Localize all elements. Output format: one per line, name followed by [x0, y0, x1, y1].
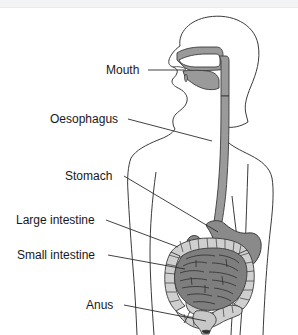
- label-small-intestine: Small intestine: [17, 249, 95, 261]
- label-anus: Anus: [86, 299, 113, 311]
- torso-right-outline: [263, 178, 273, 335]
- oesophagus-shape: [214, 96, 229, 222]
- uvula-detail: [185, 74, 188, 82]
- label-oesophagus: Oesophagus: [50, 113, 118, 125]
- rectum-anus-group: [193, 311, 216, 334]
- digestive-system-diagram: Mouth Oesophagus Stomach Large intestine…: [0, 0, 298, 335]
- tongue-shape: [183, 70, 219, 89]
- label-mouth: Mouth: [106, 64, 139, 76]
- leader-line-large-intestine: [106, 220, 178, 247]
- neck-right-outline: [226, 140, 272, 178]
- anatomy-illustration: [0, 0, 298, 335]
- oral-cavity-group: [173, 47, 229, 96]
- torso-left-outline: [128, 158, 137, 335]
- label-stomach: Stomach: [65, 170, 112, 182]
- neck-left-outline: [131, 129, 175, 158]
- label-large-intestine: Large intestine: [16, 214, 95, 226]
- leader-line-oesophagus: [128, 119, 212, 141]
- leader-line-stomach: [124, 176, 218, 232]
